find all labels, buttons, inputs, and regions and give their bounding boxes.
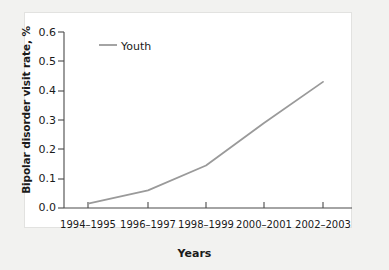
x-tick-marks (88, 202, 323, 208)
data-line-youth (88, 82, 323, 204)
bipolar-disorder-visit-rate-chart: Bipolar disorder visit rate, % 0.6 0.5 0… (0, 0, 389, 270)
plot-svg (0, 0, 389, 270)
y-tick-marks (58, 32, 64, 208)
